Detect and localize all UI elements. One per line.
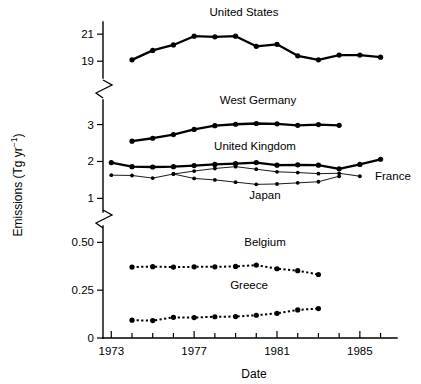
series-label-greece: Greece	[230, 279, 268, 291]
data-point	[316, 163, 321, 168]
y-tick-label-middle-panel-0: 1	[88, 192, 94, 204]
axis-break-marker	[96, 210, 112, 228]
data-point	[192, 169, 196, 173]
data-point	[171, 164, 176, 169]
series-label-belgium: Belgium	[244, 236, 286, 248]
data-point	[295, 123, 300, 128]
data-point	[150, 48, 155, 53]
data-point	[274, 311, 279, 316]
data-point	[337, 123, 342, 128]
data-point	[109, 160, 114, 165]
data-point	[171, 132, 176, 137]
series-label-west-germany: West Germany	[220, 94, 297, 106]
data-point	[171, 42, 176, 47]
data-point	[317, 180, 321, 184]
data-point	[212, 264, 217, 269]
series-japan	[172, 172, 342, 186]
data-point	[234, 180, 238, 184]
data-point	[378, 157, 383, 162]
data-point	[274, 42, 279, 47]
y-tick-label-bottom-panel-1: 0.25	[72, 284, 94, 296]
series-label-japan: Japan	[249, 189, 280, 201]
data-point	[212, 34, 217, 39]
data-point	[295, 268, 300, 273]
data-point	[316, 306, 321, 311]
axes-layer: 1973197719811985192112300.250.50DateEmis…	[9, 22, 397, 381]
data-point	[254, 44, 259, 49]
data-point	[129, 139, 134, 144]
emissions-broken-axis-chart: 1973197719811985192112300.250.50DateEmis…	[0, 0, 421, 384]
data-point	[213, 178, 217, 182]
data-point	[254, 263, 259, 268]
data-point	[233, 314, 238, 319]
data-point	[274, 163, 279, 168]
data-point	[192, 315, 197, 320]
data-point	[337, 174, 341, 178]
data-point	[212, 314, 217, 319]
data-point	[129, 318, 134, 323]
data-point	[171, 315, 176, 320]
data-point	[296, 181, 300, 185]
x-tick-label-1985: 1985	[347, 345, 373, 357]
data-point	[358, 174, 362, 178]
data-point	[234, 165, 238, 169]
data-point	[378, 55, 383, 60]
data-point	[129, 264, 134, 269]
data-point	[212, 123, 217, 128]
data-point	[254, 313, 259, 318]
data-point	[296, 171, 300, 175]
data-point	[150, 136, 155, 141]
series-united-states	[129, 34, 383, 63]
data-point	[316, 122, 321, 127]
data-point	[172, 172, 176, 176]
data-point	[233, 34, 238, 39]
y-tick-label-middle-panel-2: 3	[88, 119, 94, 131]
x-tick-label-1973: 1973	[98, 345, 124, 357]
data-point	[295, 307, 300, 312]
y-tick-label-top-panel-1: 21	[81, 28, 94, 40]
data-point	[150, 318, 155, 323]
data-point	[150, 164, 155, 169]
chart-canvas: 1973197719811985192112300.250.50DateEmis…	[0, 0, 421, 384]
data-point	[151, 176, 155, 180]
data-point	[254, 167, 258, 171]
data-point	[233, 264, 238, 269]
series-line	[132, 309, 318, 321]
series-line	[132, 265, 318, 274]
data-point	[357, 53, 362, 58]
axis-break-marker	[96, 80, 112, 98]
y-axis-title-tail: )	[11, 133, 25, 137]
series-belgium	[129, 263, 321, 278]
data-point	[192, 127, 197, 132]
y-tick-label-middle-panel-1: 2	[88, 155, 94, 167]
data-point	[295, 162, 300, 167]
data-point	[254, 160, 259, 165]
data-point	[192, 177, 196, 181]
data-point	[254, 182, 258, 186]
data-point	[337, 53, 342, 58]
data-point	[274, 121, 279, 126]
data-point	[171, 264, 176, 269]
y-tick-label-bottom-panel-2: 0.50	[72, 236, 94, 248]
series-label-france: France	[375, 170, 411, 182]
data-point	[192, 264, 197, 269]
series-label-united-states: United States	[209, 6, 278, 18]
data-point	[316, 272, 321, 277]
data-point	[357, 162, 362, 167]
data-point	[130, 174, 134, 178]
data-point	[150, 264, 155, 269]
series-greece	[129, 306, 321, 323]
series-label-united-kingdom: United Kingdom	[214, 140, 296, 152]
data-point	[275, 170, 279, 174]
data-point	[337, 166, 342, 171]
data-point	[274, 266, 279, 271]
data-point	[109, 173, 113, 177]
labels-layer: United StatesWest GermanyUnited KingdomF…	[209, 6, 410, 291]
data-point	[129, 164, 134, 169]
data-point	[129, 57, 134, 62]
data-point	[316, 57, 321, 62]
y-axis-title: Emissions (Tg yr−1)	[9, 133, 25, 236]
data-point	[317, 172, 321, 176]
data-point	[192, 163, 197, 168]
data-point	[254, 121, 259, 126]
